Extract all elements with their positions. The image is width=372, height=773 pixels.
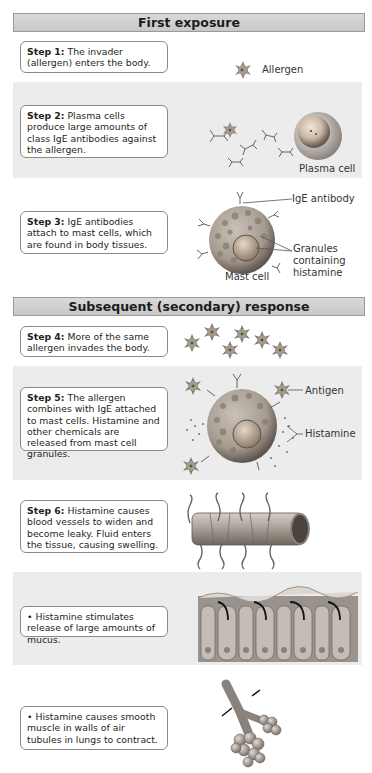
step-3-box: Step 3: IgE antibodies attach to mast ce…	[20, 211, 168, 254]
plasma-cell-icon	[292, 110, 344, 162]
air-tubule-icon	[218, 682, 288, 772]
step-1-box: Step 1: The invader (allergen) enters th…	[20, 41, 168, 73]
step-4-box: Step 4: More of the same allergen invade…	[20, 326, 168, 357]
plasma-cell-label: Plasma cell	[299, 163, 355, 174]
antibodies-icon	[200, 120, 300, 170]
mucus-box: • Histamine stimulates release of large …	[20, 606, 168, 637]
mucus-epithelium-icon	[198, 584, 360, 664]
histamine-label: Histamine	[305, 428, 356, 439]
allergen-label: Allergen	[262, 64, 303, 75]
allergens-group-icon	[180, 320, 300, 365]
blood-vessel-icon	[180, 493, 315, 570]
mast-cell-icon	[190, 188, 300, 283]
step-6-box: Step 6: Histamine causes blood vessels t…	[20, 500, 168, 553]
section-title: First exposure	[138, 15, 240, 30]
section-header-first-exposure: First exposure	[13, 13, 365, 32]
ige-antibody-label: IgE antibody	[292, 193, 355, 204]
mast-cell-label: Mast cell	[225, 271, 269, 282]
step-2-box: Step 2: Plasma cells produce large amoun…	[20, 105, 168, 158]
granules-label-line2: containing	[293, 255, 346, 266]
step-5-box: Step 5: The allergen combines with IgE a…	[20, 387, 168, 451]
granules-label-line1: Granules	[293, 243, 338, 254]
antigen-label: Antigen	[305, 385, 344, 396]
allergen-icon	[233, 60, 253, 80]
mast-cell-activated-icon	[175, 368, 305, 478]
section-title: Subsequent (secondary) response	[68, 299, 309, 314]
granules-label-line3: histamine	[293, 267, 342, 278]
lungs-box: • Histamine causes smooth muscle in wall…	[20, 706, 168, 750]
section-header-secondary-response: Subsequent (secondary) response	[13, 297, 365, 316]
